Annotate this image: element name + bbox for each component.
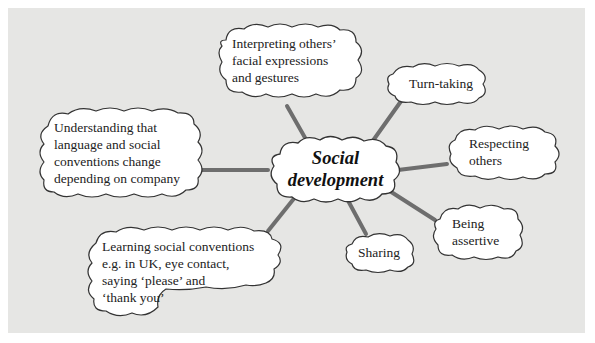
center-node-social-development: Social development	[268, 134, 403, 204]
node-interpreting-others: Interpreting others’ facial expressions …	[216, 22, 364, 98]
node-understanding-language: Understanding that language and social c…	[38, 106, 208, 200]
node-label: Understanding that language and social c…	[54, 119, 180, 187]
node-label: Sharing	[358, 244, 400, 261]
node-label: Learning social conventions e.g. in UK, …	[102, 238, 254, 306]
connector-respecting	[398, 164, 447, 170]
node-turn-taking: Turn-taking	[385, 62, 488, 104]
node-label: Respecting others	[469, 135, 529, 169]
node-label: Turn-taking	[409, 75, 473, 92]
node-respecting-others: Respecting others	[447, 124, 560, 180]
node-sharing: Sharing	[344, 232, 415, 272]
node-label: Being assertive	[452, 215, 499, 249]
center-label: Social development	[268, 147, 403, 191]
node-label: Interpreting others’ facial expressions …	[232, 35, 337, 86]
node-being-assertive: Being assertive	[432, 203, 524, 261]
node-learning-social-conventions: Learning social conventions e.g. in UK, …	[86, 225, 286, 318]
